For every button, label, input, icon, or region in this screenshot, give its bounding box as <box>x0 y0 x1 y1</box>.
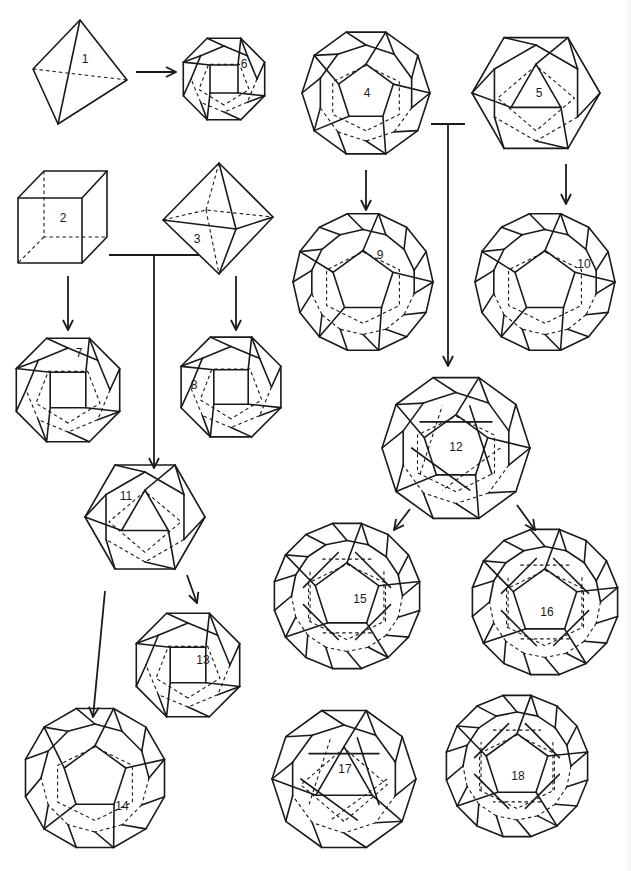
solid-label-8: 8 <box>191 378 198 392</box>
solid-snub-dodecahedron <box>446 695 587 836</box>
arrow-4-and-5-to-12 <box>431 124 465 366</box>
solid-truncated-icosahedron <box>475 214 615 350</box>
arrows-layer <box>68 72 566 717</box>
solid-label-11: 11 <box>120 489 133 503</box>
solid-truncated-tetrahedron <box>183 38 264 119</box>
solid-snub-cube <box>272 711 416 848</box>
solid-rhombicosidodecahedron <box>274 523 419 668</box>
solid-rhombicuboctahedron <box>136 613 239 716</box>
solid-label-1: 1 <box>82 52 89 66</box>
solid-label-7: 7 <box>76 346 83 360</box>
solid-label-15: 15 <box>353 592 367 606</box>
solid-truncated-cuboctahedron <box>25 708 164 847</box>
solid-truncated-dodecahedron <box>293 214 433 350</box>
solid-label-9: 9 <box>377 248 384 262</box>
solid-cuboctahedron <box>85 465 205 569</box>
solid-label-17: 17 <box>338 762 352 776</box>
scan-edge <box>625 0 631 871</box>
solid-label-13: 13 <box>196 653 210 667</box>
solid-label-18: 18 <box>511 769 525 783</box>
polyhedra-diagram: 123456789101112131415161718 <box>0 0 631 871</box>
solid-octahedron <box>163 163 273 274</box>
solid-label-2: 2 <box>60 211 67 225</box>
arrow-11-to-14 <box>93 591 105 717</box>
solid-label-5: 5 <box>536 86 543 100</box>
labels-layer: 123456789101112131415161718 <box>60 52 591 813</box>
diagram-canvas: 123456789101112131415161718 <box>0 0 631 871</box>
solid-truncated-icosidodecahedron <box>472 529 617 674</box>
solid-tetrahedron <box>33 20 127 124</box>
solid-label-6: 6 <box>241 57 248 71</box>
arrow-11-to-13 <box>187 575 197 603</box>
solid-label-12: 12 <box>449 440 463 454</box>
solids-layer <box>16 20 617 848</box>
solid-label-10: 10 <box>577 257 591 271</box>
solid-label-16: 16 <box>540 605 554 619</box>
solid-label-4: 4 <box>364 86 371 100</box>
arrow-12-to-16 <box>517 505 535 530</box>
solid-label-14: 14 <box>115 799 129 813</box>
solid-truncated-cube <box>16 338 119 441</box>
arrow-12-to-15 <box>394 509 410 530</box>
solid-label-3: 3 <box>194 232 201 246</box>
